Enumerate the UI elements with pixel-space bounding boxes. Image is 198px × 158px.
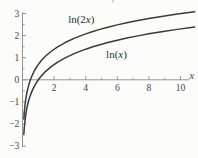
x-axis-tick-label: 4 — [83, 83, 88, 93]
y-axis-tick-label: 1 — [15, 53, 20, 63]
curve-label-lnx: ln(x) — [106, 48, 127, 61]
y-axis-tick-label: −2 — [9, 119, 19, 129]
y-axis-tick-label: 2 — [15, 31, 20, 41]
x-axis-label: x — [189, 70, 195, 81]
x-axis-tick-label: 8 — [147, 83, 152, 93]
curve-label-ln2x: ln(2x) — [68, 13, 95, 26]
y-axis-tick-label: −1 — [9, 97, 19, 107]
y-axis-tick-label: 3 — [15, 9, 20, 19]
y-axis-tick-label: 0 — [15, 75, 20, 85]
x-axis-tick-label: 2 — [52, 83, 57, 93]
plot-background — [0, 0, 198, 158]
x-axis-tick-label: 6 — [115, 83, 120, 93]
y-axis-tick-label: −3 — [9, 141, 19, 151]
x-axis-tick-label: 10 — [176, 83, 186, 93]
plot-canvas: 2468103210−1−2−3xln(2x)ln(x) — [0, 0, 198, 158]
log-functions-figure: 2468103210−1−2−3xln(2x)ln(x) — [0, 0, 198, 158]
